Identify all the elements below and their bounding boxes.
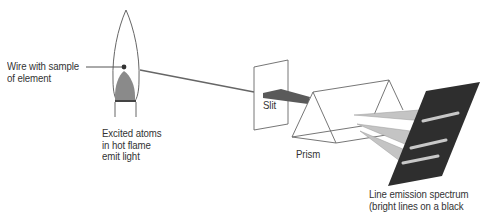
emission-spectrum-diagram: Wire with sample of element Excited atom… — [0, 0, 486, 213]
label-prism: Prism — [296, 149, 320, 161]
label-flame-line-3: emit light — [102, 151, 161, 163]
label-spectrum-line-1: Line emission spectrum — [369, 189, 468, 201]
inner-flame — [115, 71, 135, 101]
prism-back-inner — [374, 80, 389, 115]
wire-sample-dot — [122, 65, 127, 70]
light-beam — [140, 70, 254, 92]
diagram-canvas — [0, 0, 486, 213]
prism-top-ridge — [313, 80, 389, 92]
label-flame-line-1: Excited atoms — [102, 128, 161, 140]
label-spectrum: Line emission spectrum (bright lines on … — [369, 189, 468, 212]
label-prism-text: Prism — [296, 149, 320, 161]
prism-back-edge — [389, 80, 403, 110]
label-wire: Wire with sample of element — [7, 61, 79, 84]
label-wire-line-1: Wire with sample — [7, 61, 79, 73]
label-spectrum-line-2: (bright lines on a black — [369, 201, 468, 213]
refracted-beam-1 — [354, 110, 424, 121]
flame — [86, 10, 139, 117]
label-flame: Excited atoms in hot flame emit light — [102, 128, 161, 163]
label-slit: Slit — [263, 100, 276, 112]
label-wire-line-2: of element — [7, 73, 79, 85]
label-slit-text: Slit — [263, 100, 276, 112]
